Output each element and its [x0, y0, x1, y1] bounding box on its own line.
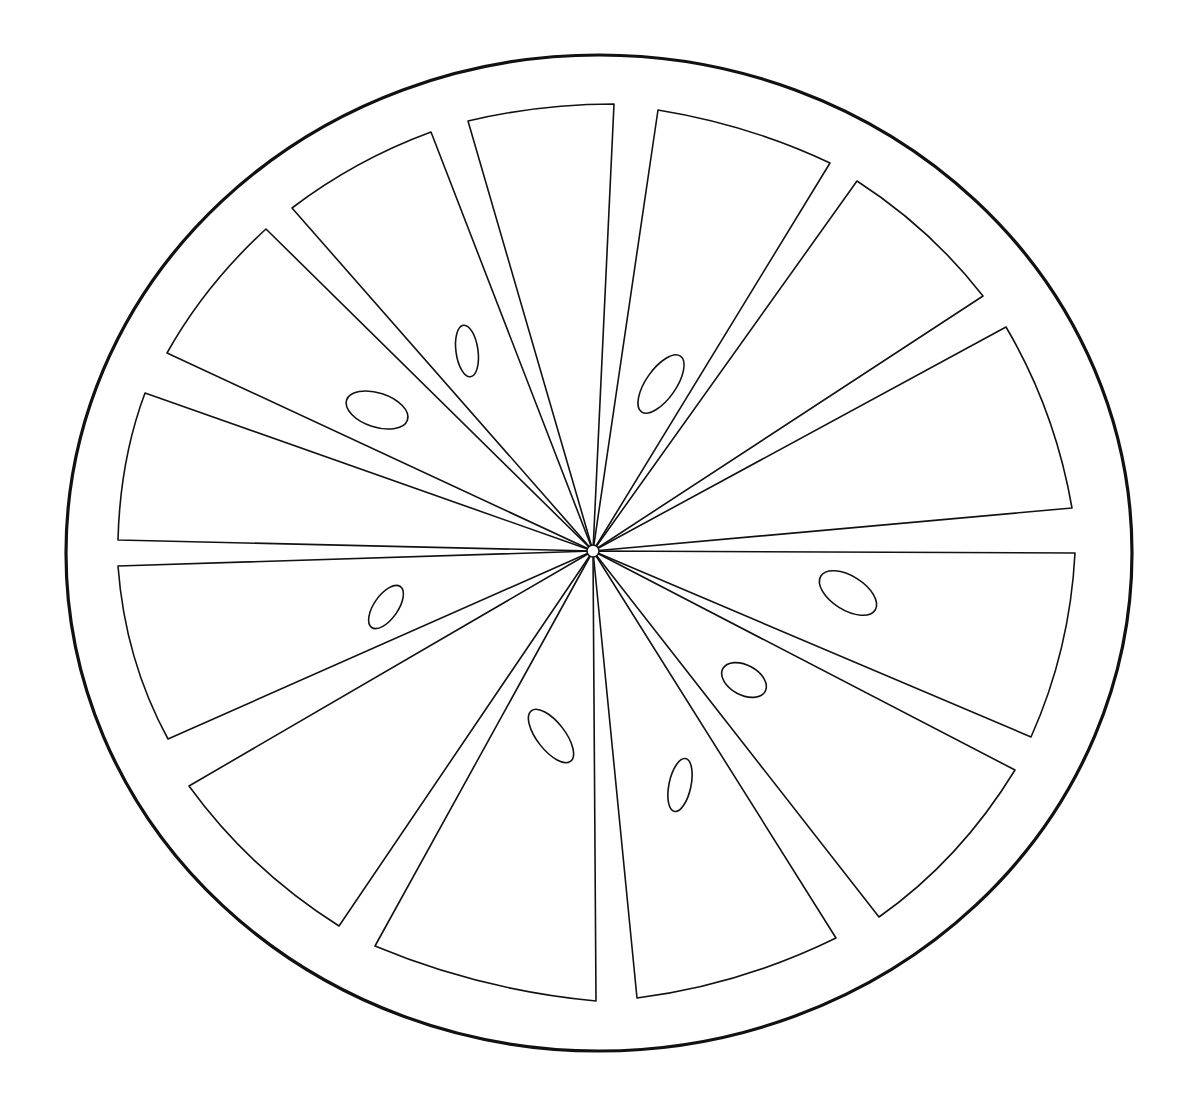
center-hub — [587, 545, 599, 557]
citrus-slice-drawing — [0, 0, 1189, 1113]
